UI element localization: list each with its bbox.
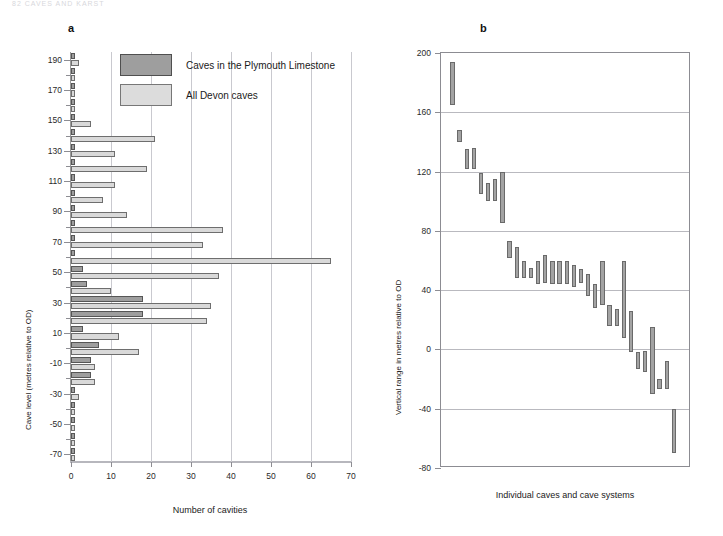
panel-a-bar [71,114,75,120]
panel-a-bar [71,182,115,188]
panel-a-bar [71,197,103,203]
panel-a-bar [71,205,75,211]
panel-a-bar [71,227,223,233]
panel-b-range-bar [643,351,647,372]
panel-a-y-tick [64,60,71,61]
panel-b-y-tick [435,112,441,113]
panel-a-bar [71,425,75,431]
panel-b-range-bar [465,149,469,168]
panel-a-bar [71,342,99,348]
panel-b-gridline [441,409,689,410]
panel-a-bar [71,440,75,446]
panel-a-legend: Caves in the Plymouth LimestoneAll Devon… [120,54,350,108]
panel-a-bar [71,349,139,355]
panel-a-letter: a [68,22,74,34]
panel-a-bar [71,242,203,248]
panel-a-y-tick [64,211,71,212]
panel-b-y-tick-label: 0 [426,344,431,354]
panel-a-y-tick [64,90,71,91]
panel-b-range-bar [472,148,476,169]
panel-a-x-tick [351,462,352,467]
panel-a-x-tick-label: 70 [346,471,355,481]
panel-a-y-tick-label: 50 [53,267,62,277]
panel-b-range-bar [543,255,547,283]
panel-a-bar [71,68,75,74]
panel-b-letter: b [480,22,487,34]
panel-a-bar [71,379,95,385]
panel-a-y-tick-label: -30 [50,389,62,399]
panel-b-range-bar [615,309,619,325]
panel-b-range-bar [507,241,511,257]
panel-a-bar [71,303,211,309]
panel-a-bar [71,53,75,59]
panel-b-range-bar [486,183,490,201]
panel-b-range-bar [600,261,604,305]
panel-a-y-tick-label: 90 [53,206,62,216]
panel-a-y-tick [64,181,71,182]
panel-a-x-tick [231,462,232,467]
panel-b-gridline [441,112,689,113]
panel-b-range-bar [629,311,633,353]
panel-a-bar [71,326,83,332]
panel-b-y-tick [435,468,441,469]
panel-a-x-tick [151,462,152,467]
panel-a-x-tick-label: 10 [106,471,115,481]
panel-a-bar [71,409,75,415]
panel-b-range-bar [529,268,533,278]
panel-b-y-tick-label: 40 [422,285,431,295]
panel-a-legend-item-plymouth: Caves in the Plymouth Limestone [120,54,335,76]
panel-b-range-bar [522,261,526,279]
panel-a-bar [71,448,75,454]
panel-a-y-tick [64,303,71,304]
panel-a-bar [71,266,83,272]
panel-a-bar [71,212,127,218]
panel-a-y-tick [64,120,71,121]
panel-a-y-tick [64,424,71,425]
panel-b-range-bar [536,261,540,285]
panel-a-bar [71,220,75,226]
panel-b-range-bar [550,261,554,285]
panel-b-range-bar [672,409,676,453]
panel-a-x-tick [271,462,272,467]
panel-b-range-bar [457,130,461,142]
panel-a-y-tick-label: 110 [48,176,62,186]
panel-a-bar [71,75,75,81]
panel-a-bar [71,144,75,150]
panel-a-gridline [351,52,352,462]
panel-a-x-tick-label: 20 [146,471,155,481]
panel-a-bar [71,372,91,378]
legend-swatch-plymouth [120,54,172,76]
panel-a-bar [71,99,75,105]
panel-b-range-bar [650,327,654,394]
panel-a-x-tick-label: 40 [226,471,235,481]
panel-b-range-bar [450,62,454,105]
panel-a-bar [71,455,75,461]
panel-a-y-tick [64,333,71,334]
panel-a-y-tick-label: 10 [53,328,62,338]
panel-a-bar [71,129,75,135]
panel-a-bar [71,190,75,196]
panel-a-bar [71,333,119,339]
panel-b-gridline [441,231,689,232]
panel-a-x-tick-label: 50 [266,471,275,481]
legend-label-plymouth: Caves in the Plymouth Limestone [186,60,335,71]
panel-a-bar [71,90,75,96]
panel-a-bar [71,121,91,127]
panel-a-bar [71,159,75,165]
panel-b-range-bar [572,265,576,287]
panel-b-x-axis-title: Individual caves and cave systems [496,490,635,500]
panel-b-plot-area: 20016012080400-40-80 [440,52,690,467]
panel-a-legend-item-devon: All Devon caves [120,84,258,106]
panel-b-y-tick-label: 160 [417,107,431,117]
panel-a-y-tick-label: -70 [50,449,62,459]
panel-a-bar [71,166,147,172]
panel-b-range-bar [493,179,497,201]
panel-b-y-tick [435,172,441,173]
panel-a-y-tick [64,394,71,395]
panel-a-y-tick-label: 150 [48,115,62,125]
panel-b-range-bar [622,261,626,338]
panel-a-bar [71,417,75,423]
panel-a-y-tick-label: 130 [48,146,62,156]
panel-b-range-bar [500,172,504,224]
panel-b-y-tick [435,409,441,410]
